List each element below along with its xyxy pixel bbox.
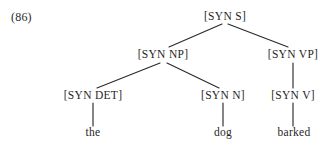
tree-node-det: [SYN DET] <box>64 89 123 101</box>
tree-leaf-the: the <box>86 126 101 138</box>
edge-np-det <box>97 63 160 88</box>
tree-node-vp: [SYN VP] <box>268 48 318 60</box>
edge-s-np <box>169 24 222 47</box>
tree-leaf-barked: barked <box>277 126 310 138</box>
syntax-tree-figure: (86) [SYN S] [SYN NP] [SYN VP] [SYN DET]… <box>0 0 335 149</box>
tree-node-np: [SYN NP] <box>138 48 189 60</box>
edge-s-vp <box>228 24 288 47</box>
tree-node-v: [SYN V] <box>271 89 315 101</box>
example-number: (86) <box>11 10 32 25</box>
tree-node-n: [SYN N] <box>201 89 245 101</box>
tree-leaf-dog: dog <box>214 126 232 138</box>
edge-np-n <box>167 63 219 88</box>
tree-node-s: [SYN S] <box>204 10 246 22</box>
